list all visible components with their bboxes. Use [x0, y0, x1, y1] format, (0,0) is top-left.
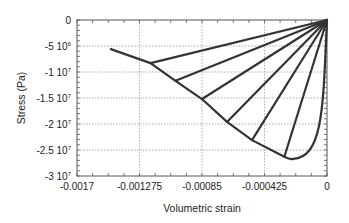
- x-axis-label: Volumetric strain: [163, 202, 241, 214]
- x-tick-label: -0.001275: [117, 181, 162, 192]
- y-tick-label: -1.5 107: [37, 93, 72, 104]
- y-tick-label: -5 106: [45, 41, 72, 52]
- series-unload-5: [252, 20, 327, 140]
- x-tick-label: 0: [324, 181, 330, 192]
- y-tick-labels: 0-5 106-1 107-1.5 107-2 107-2.5 107-3 10…: [37, 15, 72, 182]
- y-tick-label: -1 107: [45, 67, 72, 78]
- x-tick-label: -0.0017: [60, 181, 94, 192]
- data-series: [111, 20, 327, 159]
- y-tick-label: -2 107: [45, 119, 72, 130]
- x-tick-label: -0.00085: [182, 181, 222, 192]
- series-unload-1: [151, 20, 327, 63]
- y-tick-label: -2.5 107: [37, 145, 72, 156]
- x-tick-labels: -0.0017-0.001275-0.00085-0.0004250: [60, 181, 330, 192]
- y-axis-label: Stress (Pa): [15, 72, 27, 125]
- stress-strain-chart: 0-5 106-1 107-1.5 107-2 107-2.5 107-3 10…: [0, 0, 349, 223]
- y-tick-label: 0: [65, 15, 71, 26]
- x-tick-label: -0.000425: [242, 181, 287, 192]
